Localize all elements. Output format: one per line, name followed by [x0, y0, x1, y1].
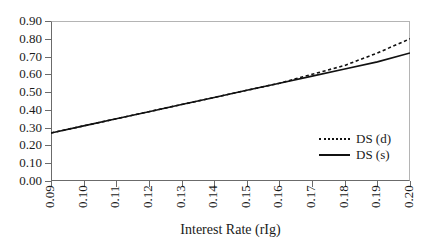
y-axis-tick: 0.10	[0, 155, 51, 171]
x-axis-tick-label: 0.09	[42, 190, 58, 208]
solid-line-swatch-icon	[318, 150, 351, 160]
x-axis-tick-label: 0.20	[401, 190, 417, 208]
y-axis-tick-label: 0.00	[19, 173, 42, 189]
x-axis-tick-label: 0.14	[205, 190, 221, 208]
y-axis-tick-label: 0.80	[19, 31, 42, 47]
y-axis-tick-label: 0.60	[19, 66, 42, 82]
legend-item-ds-s: DS (s)	[318, 147, 391, 162]
y-axis-tick: 0.60	[0, 66, 51, 82]
x-axis-tick-label: 0.11	[107, 190, 123, 208]
y-axis-tick: 0.90	[0, 13, 51, 29]
y-axis-tick: 0.50	[0, 84, 51, 100]
x-axis-tick-label: 0.16	[270, 190, 286, 208]
y-axis-tick-label: 0.50	[19, 84, 42, 100]
x-axis-tick-label: 0.12	[140, 190, 156, 208]
legend-label-ds-s: DS (s)	[356, 147, 390, 162]
dashed-line-swatch-icon	[318, 134, 351, 144]
y-axis-tick-label: 0.20	[19, 137, 42, 153]
y-axis-tick: 0.80	[0, 31, 51, 47]
y-axis-tick: 0.70	[0, 49, 51, 65]
y-axis-tick: 0.40	[0, 102, 51, 118]
x-axis-tick-label: 0.19	[368, 190, 384, 208]
y-axis-tick: 0.30	[0, 120, 51, 136]
y-axis-tick: 0.20	[0, 137, 51, 153]
y-axis-tick-label: 0.90	[19, 13, 42, 29]
legend-label-ds-d: DS (d)	[356, 131, 391, 146]
x-axis-tick-label: 0.15	[238, 190, 254, 208]
y-axis-tick-label: 0.30	[19, 120, 42, 136]
x-axis-tick-label: 0.10	[75, 190, 91, 208]
x-axis-title: Interest Rate (rIg)	[51, 222, 410, 238]
y-axis-tick-label: 0.10	[19, 155, 42, 171]
legend-item-ds-d: DS (d)	[318, 131, 391, 146]
y-axis-tick-label: 0.70	[19, 49, 42, 65]
series-line-ds-s	[51, 53, 410, 133]
y-axis-tick-label: 0.40	[19, 102, 42, 118]
x-axis-tick-label: 0.13	[173, 190, 189, 208]
chart-legend: DS (d) DS (s)	[318, 131, 391, 162]
x-axis-tick-label: 0.18	[336, 190, 352, 208]
series-line-ds-d	[51, 39, 410, 133]
chart-container: 0.900.800.700.600.500.400.300.200.100.00…	[0, 0, 430, 246]
x-axis-tick-label: 0.17	[303, 190, 319, 208]
